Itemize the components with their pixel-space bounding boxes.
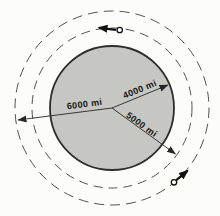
satellite-outer-orbit <box>171 171 187 185</box>
satellite-icon <box>117 27 122 32</box>
orbit-diagram-canvas: 6000 mi 4000 mi 5000 mi <box>0 0 220 216</box>
satellite-inner-orbit <box>99 27 122 32</box>
satellite-icon <box>171 180 176 185</box>
orbit-diagram-figure: 6000 mi 4000 mi 5000 mi <box>0 0 220 216</box>
velocity-arrow-outer-satellite <box>176 171 187 180</box>
